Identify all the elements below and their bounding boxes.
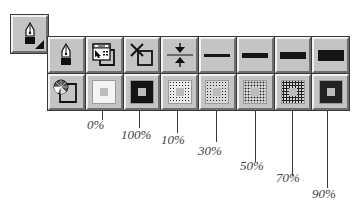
line-weight-4-button[interactable] (312, 37, 349, 73)
no-pen-button[interactable] (124, 37, 161, 73)
color-dialog-button[interactable] (48, 74, 85, 110)
callout-label: 10% (161, 132, 185, 148)
fill-pattern-swatch-icon (281, 80, 305, 104)
callout-line (216, 110, 217, 142)
pen-style-dialog-icon (91, 42, 117, 68)
callout-line (177, 110, 178, 133)
callout-label: 100% (121, 127, 151, 143)
pen-fill-palette (47, 36, 350, 111)
line-weight-1-button[interactable] (199, 37, 236, 73)
line-weight-swatch-icon (318, 50, 344, 61)
callout-label: 90% (312, 186, 336, 202)
fill-pattern-swatch-icon (319, 80, 343, 104)
line-weight-2-button[interactable] (237, 37, 274, 73)
callout-line (327, 110, 328, 188)
fill-70-button[interactable] (275, 74, 312, 110)
callout-label: 30% (198, 143, 222, 159)
fill-90-button[interactable] (312, 74, 349, 110)
callout-line (292, 110, 293, 176)
callout-line (255, 110, 256, 162)
hairline-icon (166, 42, 194, 68)
line-weight-3-button[interactable] (275, 37, 312, 73)
fill-100-button[interactable] (124, 74, 161, 110)
pen-style-dialog-button[interactable] (86, 37, 123, 73)
callout-label: 0% (87, 117, 104, 133)
fill-10-button[interactable] (161, 74, 198, 110)
submenu-indicator-icon (35, 40, 44, 49)
fill-pattern-swatch-icon (130, 80, 154, 104)
pen-nib-icon (58, 43, 74, 67)
hairline-button[interactable] (161, 37, 198, 73)
callout-label: 70% (276, 170, 300, 186)
pen-tool-main-button[interactable] (11, 15, 48, 53)
fill-pattern-swatch-icon (92, 80, 116, 104)
line-weight-swatch-icon (204, 54, 230, 57)
line-weight-swatch-icon (280, 52, 306, 59)
fill-50-button[interactable] (237, 74, 274, 110)
callout-label: 50% (240, 158, 264, 174)
callout-line (139, 110, 140, 128)
line-weight-swatch-icon (242, 53, 268, 58)
fill-pattern-swatch-icon (168, 80, 192, 104)
fill-pattern-swatch-icon (243, 80, 267, 104)
pen-tool-button[interactable] (48, 37, 85, 73)
fill-pattern-swatch-icon (205, 80, 229, 104)
fill-0-button[interactable] (86, 74, 123, 110)
color-wheel-dialog-icon (52, 78, 80, 106)
fill-30-button[interactable] (199, 74, 236, 110)
no-pen-icon (129, 42, 155, 68)
